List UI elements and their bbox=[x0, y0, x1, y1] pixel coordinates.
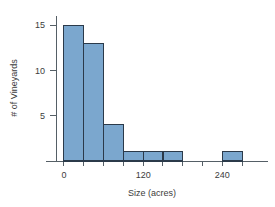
y-tick-label: 5 bbox=[40, 111, 45, 121]
histogram-bar bbox=[222, 152, 242, 161]
chart-canvas: 51015 0120240 Size (acres) # of Vineyard… bbox=[0, 0, 275, 207]
histogram-bar bbox=[163, 152, 183, 161]
histogram-chart: 51015 0120240 Size (acres) # of Vineyard… bbox=[0, 0, 275, 207]
x-tick-label: 240 bbox=[215, 170, 230, 180]
y-tick-label: 15 bbox=[35, 20, 45, 30]
y-axis-title: # of Vineyards bbox=[9, 59, 19, 117]
y-axis-ticks: 51015 bbox=[35, 20, 56, 121]
x-axis-title: Size (acres) bbox=[128, 188, 176, 198]
histogram-bar bbox=[123, 152, 143, 161]
histogram-bar bbox=[143, 152, 163, 161]
histogram-bar bbox=[64, 25, 84, 161]
bar-series bbox=[64, 25, 242, 161]
histogram-bar bbox=[84, 43, 104, 161]
histogram-bar bbox=[104, 125, 124, 161]
y-tick-label: 10 bbox=[35, 66, 45, 76]
x-axis-ticks: 0120240 bbox=[61, 161, 242, 180]
x-tick-label: 0 bbox=[61, 170, 66, 180]
x-tick-label: 120 bbox=[136, 170, 151, 180]
